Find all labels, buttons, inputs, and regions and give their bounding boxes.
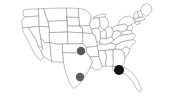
map-marker-deep-south[interactable]: [114, 65, 124, 75]
state-oregon: [22, 16, 39, 28]
state-alabama: [105, 50, 114, 67]
us-map-figure: [0, 0, 173, 107]
state-texas: [63, 53, 93, 89]
state-kansas: [68, 32, 83, 44]
state-colorado: [49, 32, 68, 44]
state-washington: [23, 9, 39, 17]
state-wisconsin: [90, 18, 101, 30]
state-montana: [44, 8, 67, 21]
map-marker-texas[interactable]: [76, 73, 84, 81]
state-wyoming: [49, 21, 68, 33]
state-minnesota: [79, 8, 92, 26]
state-south-dakota: [67, 17, 80, 26]
map-marker-central-plains[interactable]: [77, 47, 85, 55]
state-outlines-layer: [22, 4, 152, 93]
state-new-mexico: [50, 43, 64, 63]
us-map-svg: [0, 0, 173, 107]
